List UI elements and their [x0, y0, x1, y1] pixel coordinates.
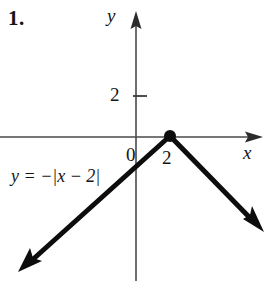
vertex-dot-icon	[164, 130, 176, 142]
origin-label: 0	[126, 145, 136, 164]
y-axis-tick-label-2: 2	[110, 85, 120, 104]
arrow-down-right-icon	[243, 206, 264, 232]
graph-figure: 1. y x 2 0 2 y = −|x − 2|	[0, 0, 273, 281]
problem-number: 1.	[8, 8, 25, 29]
y-axis-label: y	[107, 6, 115, 25]
graph-left-ray	[30, 136, 170, 262]
graph-right-ray	[170, 136, 253, 221]
x-axis-tick-label-2: 2	[162, 148, 172, 167]
equation-label: y = −|x − 2|	[11, 167, 100, 185]
graph-canvas	[0, 0, 273, 281]
x-axis-label: x	[243, 143, 251, 162]
